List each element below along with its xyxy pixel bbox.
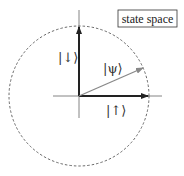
title-box-text: state space: [122, 12, 174, 26]
down-label: |↓⟩: [58, 50, 78, 65]
state-space-diagram: |↓⟩ |↑⟩ |ψ⟩ state space: [0, 0, 184, 176]
up-label: |↑⟩: [106, 103, 126, 118]
psi-label: |ψ⟩: [103, 61, 123, 76]
